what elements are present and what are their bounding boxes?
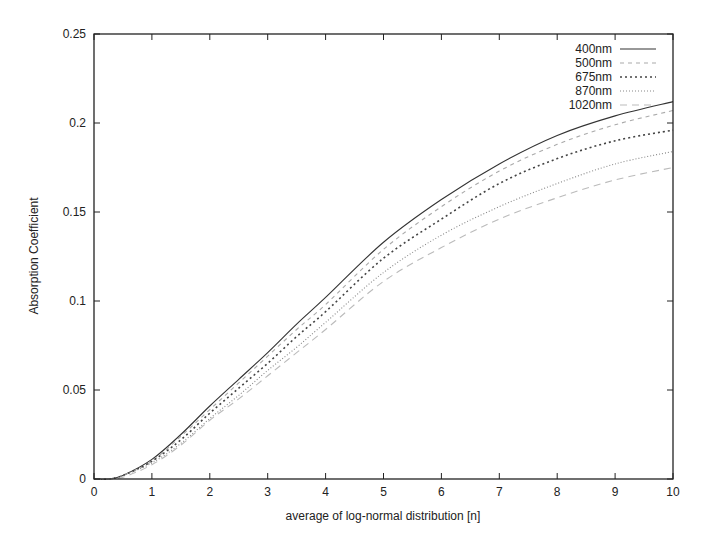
series-line-400nm — [94, 102, 673, 480]
x-tick-label: 3 — [264, 485, 271, 499]
y-tick-label: 0 — [79, 472, 86, 486]
y-tick-label: 0.2 — [69, 116, 86, 130]
legend-label: 400nm — [575, 42, 612, 56]
legend-label: 500nm — [575, 56, 612, 70]
x-tick-label: 8 — [554, 485, 561, 499]
series-line-675nm — [94, 130, 673, 479]
y-tick-label: 0.15 — [63, 205, 87, 219]
x-tick-label: 4 — [322, 485, 329, 499]
legend-label: 1020nm — [569, 98, 612, 112]
series-line-870nm — [94, 151, 673, 479]
x-tick-label: 5 — [380, 485, 387, 499]
x-tick-label: 1 — [149, 485, 156, 499]
y-axis-label: Absorption Coefficient — [27, 197, 41, 315]
legend-label: 675nm — [575, 70, 612, 84]
x-tick-label: 6 — [438, 485, 445, 499]
legend: 400nm500nm675nm870nm1020nm — [569, 42, 656, 112]
x-tick-label: 10 — [666, 485, 680, 499]
x-tick-label: 9 — [612, 485, 619, 499]
x-tick-label: 7 — [496, 485, 503, 499]
y-tick-label: 0.1 — [69, 294, 86, 308]
chart: 012345678910 00.050.10.150.20.25 average… — [0, 0, 713, 535]
y-tick-label: 0.25 — [63, 27, 87, 41]
x-axis-label: average of log-normal distribution [n] — [286, 509, 481, 523]
y-tick-label: 0.05 — [63, 383, 87, 397]
x-tick-label: 2 — [206, 485, 213, 499]
series-line-1020nm — [94, 168, 673, 480]
x-tick-label: 0 — [91, 485, 98, 499]
plot-curves — [94, 102, 673, 480]
legend-label: 870nm — [575, 84, 612, 98]
series-line-500nm — [94, 111, 673, 480]
